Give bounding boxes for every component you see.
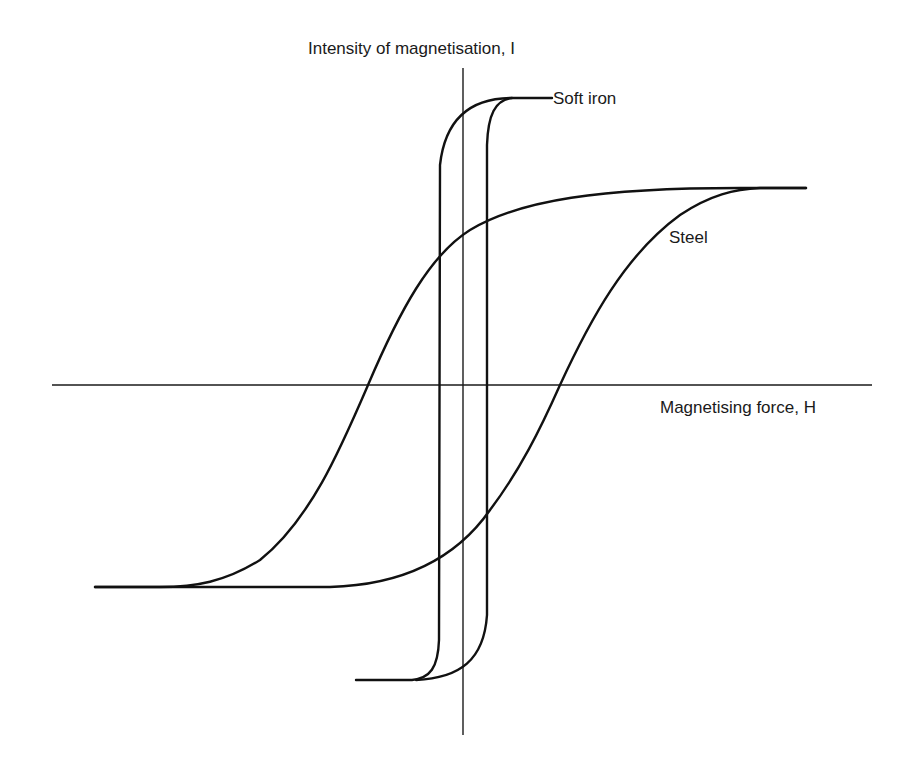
soft-iron-label: Soft iron — [553, 89, 616, 108]
soft-iron-loop — [356, 98, 552, 680]
steel-ascending-branch — [95, 188, 806, 587]
steel-label: Steel — [669, 228, 708, 247]
soft-iron-left-branch — [356, 98, 552, 680]
steel-descending-branch — [95, 188, 806, 587]
y-axis-label: Intensity of magnetisation, I — [308, 39, 515, 58]
x-axis-label: Magnetising force, H — [660, 398, 816, 417]
soft-iron-right-branch — [416, 98, 512, 680]
steel-loop — [95, 188, 806, 587]
hysteresis-diagram: Intensity of magnetisation, I Magnetisin… — [0, 0, 912, 765]
